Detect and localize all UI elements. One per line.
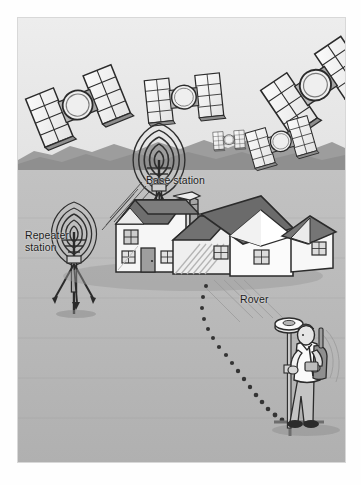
- rover-data-controller: [305, 362, 318, 371]
- label-repeater-station-line1: Repeater: [25, 230, 69, 242]
- rover-backpack-antenna: [319, 328, 323, 348]
- label-repeater-station-line2: station: [25, 242, 57, 254]
- rover-boot-left: [287, 420, 303, 428]
- label-rover: Rover: [240, 294, 269, 306]
- rover-boot-right: [303, 420, 319, 428]
- figure-stage: Base station Repeater station Rover: [0, 0, 361, 485]
- rover-pole: [287, 330, 291, 428]
- illustration-panel: Base station Repeater station Rover: [18, 18, 345, 462]
- rover-eye: [302, 334, 304, 336]
- label-base-station: Base station: [146, 175, 205, 187]
- rover-hand-on-pole: [288, 366, 298, 374]
